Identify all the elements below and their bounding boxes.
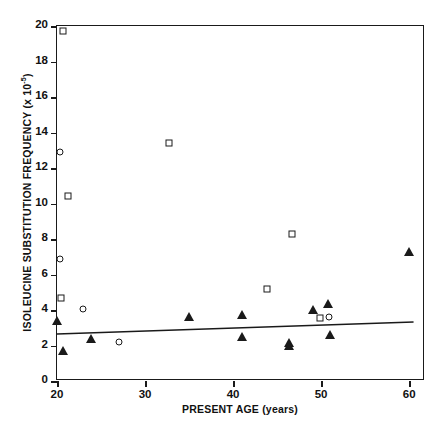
plot-area: 02468101214161820 2030405060	[56, 25, 424, 380]
data-point-circle	[115, 338, 122, 345]
x-tick-mark	[233, 381, 235, 387]
data-point-square	[264, 285, 271, 292]
regression-line	[57, 26, 425, 381]
y-axis-title-tail: )	[21, 73, 33, 77]
y-tick-label: 20	[35, 18, 48, 30]
x-tick-mark	[409, 381, 411, 387]
y-tick-label: 0	[42, 373, 48, 385]
data-point-triangle	[284, 341, 294, 350]
x-tick-label: 40	[227, 388, 240, 400]
y-tick-label: 2	[42, 338, 48, 350]
y-axis-title-text: ISOLEUCINE SUBSTITUTION FREQUENCY (x 10	[21, 84, 33, 332]
data-point-square	[165, 140, 172, 147]
data-point-circle	[326, 314, 333, 321]
y-axis-title-exponent: -5	[20, 77, 27, 84]
x-tick-mark	[57, 381, 59, 387]
data-point-circle	[80, 306, 87, 313]
y-tick-label: 16	[35, 89, 48, 101]
data-point-square	[289, 230, 296, 237]
x-tick-label: 50	[315, 388, 328, 400]
data-point-triangle	[308, 305, 318, 314]
data-point-triangle	[237, 310, 247, 319]
data-point-square	[317, 314, 324, 321]
data-point-circle	[56, 149, 63, 156]
x-axis-title: PRESENT AGE (years)	[56, 403, 424, 415]
data-point-circle	[56, 255, 63, 262]
data-point-triangle	[237, 332, 247, 341]
data-point-square	[60, 28, 67, 35]
y-tick-label: 8	[42, 231, 48, 243]
y-tick-label: 18	[35, 54, 48, 66]
scatter-plot-figure: ISOLEUCINE SUBSTITUTION FREQUENCY (x 10-…	[0, 0, 440, 427]
data-point-triangle	[325, 330, 335, 339]
x-tick-label: 20	[51, 388, 64, 400]
data-point-triangle	[404, 247, 414, 256]
x-tick-mark	[145, 381, 147, 387]
data-point-triangle	[184, 312, 194, 321]
y-tick-label: 10	[35, 196, 48, 208]
data-point-square	[64, 193, 71, 200]
data-point-triangle	[323, 299, 333, 308]
y-tick-label: 12	[35, 160, 48, 172]
data-point-triangle	[58, 346, 68, 355]
x-tick-label: 60	[403, 388, 416, 400]
data-point-triangle	[52, 316, 62, 325]
data-point-triangle	[86, 334, 96, 343]
x-tick-label: 30	[139, 388, 152, 400]
y-tick-label: 14	[35, 125, 48, 137]
data-point-square	[58, 295, 65, 302]
y-tick-label: 6	[42, 267, 48, 279]
y-tick-label: 4	[42, 302, 48, 314]
x-tick-mark	[321, 381, 323, 387]
